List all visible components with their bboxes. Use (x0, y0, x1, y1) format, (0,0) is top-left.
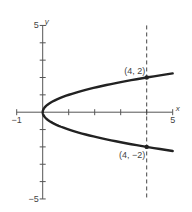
point-label: (4, 2) (124, 66, 145, 76)
y-axis-label: y (44, 17, 50, 26)
y-tick-label: 5 (34, 20, 39, 30)
point-label: (4, −2) (119, 150, 145, 160)
x-tick-label: 5 (170, 115, 175, 125)
data-point (145, 145, 149, 149)
x-axis-label: x (175, 104, 181, 113)
data-point (145, 75, 149, 79)
y-tick-label: −5 (28, 194, 38, 204)
chart: x y −155−5(4, 2)(4, −2) (0, 0, 192, 212)
x-tick-label: −1 (12, 115, 22, 125)
